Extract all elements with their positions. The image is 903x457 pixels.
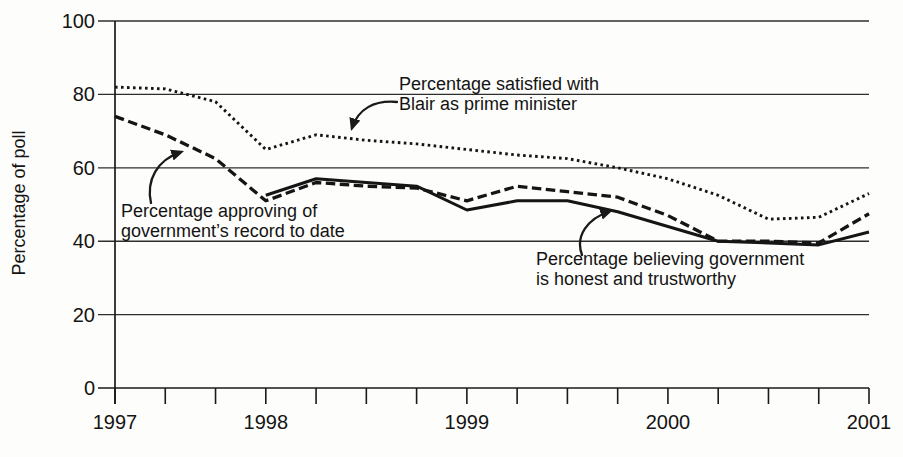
annotation-approving-line1: Percentage approving of	[121, 201, 345, 221]
x-tick-label-2001: 2001	[837, 410, 901, 434]
annotation-satisfied-line1: Percentage satisfied with	[399, 74, 599, 94]
x-tick-label-2000: 2000	[636, 410, 700, 434]
y-tick-label-0: 0	[35, 376, 95, 400]
arrow-to-approving-line	[150, 152, 181, 203]
y-tick-label-40: 40	[35, 229, 95, 253]
x-tick-label-1999: 1999	[435, 410, 499, 434]
annotation-satisfied-line2: Blair as prime minister	[399, 94, 599, 114]
poll-line-chart-figure: Percentage of poll Percentage satisfied …	[0, 0, 903, 457]
y-tick-label-60: 60	[35, 156, 95, 180]
y-tick-label-20: 20	[35, 303, 95, 327]
series-line-honest_trustworthy	[266, 179, 869, 245]
x-tick-label-1997: 1997	[83, 410, 147, 434]
arrow-to-satisfied-line	[352, 102, 397, 128]
annotation-satisfied: Percentage satisfied with Blair as prime…	[399, 74, 599, 114]
y-tick-label-100: 100	[35, 9, 95, 33]
annotation-believing: Percentage believing government is hones…	[536, 249, 804, 289]
x-tick-label-1998: 1998	[234, 410, 298, 434]
y-tick-label-80: 80	[35, 82, 95, 106]
annotation-believing-line1: Percentage believing government	[536, 249, 804, 269]
annotation-believing-line2: is honest and trustworthy	[536, 269, 804, 289]
annotation-approving-line2: government’s record to date	[121, 221, 345, 241]
y-axis-title: Percentage of poll	[8, 83, 30, 323]
annotation-approving: Percentage approving of government’s rec…	[121, 201, 345, 241]
